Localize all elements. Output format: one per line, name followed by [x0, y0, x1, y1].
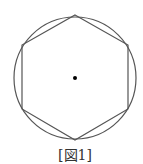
figure-caption: [図1]	[0, 144, 143, 164]
center-point	[73, 76, 77, 80]
circle-inscribed-hexagon-diagram	[0, 0, 143, 164]
